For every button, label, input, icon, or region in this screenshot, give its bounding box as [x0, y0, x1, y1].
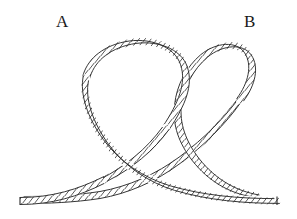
knot-illustration — [0, 0, 297, 219]
loop-label-a: A — [56, 13, 69, 30]
rope-strand-lower-back — [24, 97, 240, 204]
loop-label-b: B — [244, 13, 256, 30]
rope-knot-figure: A B — [0, 0, 297, 219]
